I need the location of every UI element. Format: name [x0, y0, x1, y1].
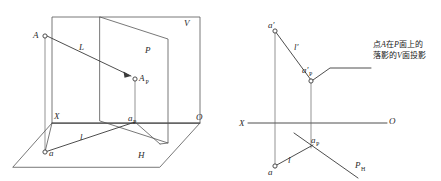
marker-point-a-lower — [43, 150, 47, 154]
left-diagram-group: A L V P A P X O a a P l H — [13, 17, 203, 167]
label-a-prime-P: a′ P — [302, 65, 313, 77]
annotation-text-block: 点A在P面上的 落影的V面投影 — [373, 39, 426, 60]
p-base-to-h-edge — [160, 143, 168, 144]
label-plane-H: H — [137, 150, 145, 160]
h-plane-edge-aP-corner — [135, 122, 160, 144]
marker-a-lower-right — [273, 164, 277, 168]
right-diagram-group: a′ l′ a′ P X O a P l a P H 点A在P面上的 — [238, 20, 426, 178]
label-point-AP: A P — [138, 73, 150, 85]
svg-text:H: H — [361, 166, 366, 172]
ray-L-A-to-AP — [47, 36, 131, 76]
label-point-aP-lower: a P — [128, 113, 137, 125]
label-plane-P: P — [144, 45, 151, 55]
label-plane-V: V — [184, 18, 191, 28]
label-line-L: L — [78, 42, 84, 52]
label-l-prime: l′ — [294, 42, 300, 52]
annotation-leader-line — [313, 68, 371, 80]
ground-trace-l — [45, 122, 135, 152]
marker-point-AP — [133, 77, 137, 81]
label-axis-X-left: X — [53, 111, 60, 121]
marker-a-prime-P — [309, 79, 313, 83]
ray-L-arrowhead — [124, 72, 132, 78]
label-a-prime: a′ — [268, 20, 276, 30]
plane-h-outline — [13, 123, 200, 167]
svg-text:P: P — [316, 141, 320, 147]
figure-root: A L V P A P X O a a P l H — [0, 0, 441, 181]
label-a-right: a — [268, 167, 273, 177]
annotation-line-1: 点A在P面上的 — [373, 39, 423, 49]
label-line-l-right: l — [288, 155, 291, 165]
label-point-A: A — [32, 30, 39, 40]
svg-text:P: P — [354, 160, 361, 170]
plane-v-outline — [52, 17, 200, 123]
trace-P-H — [294, 133, 358, 178]
marker-point-A — [43, 34, 47, 38]
label-P-H: P H — [354, 160, 366, 172]
annotation-line-2: 落影的V面投影 — [373, 50, 426, 60]
label-axis-O-right: O — [389, 116, 396, 126]
svg-text:A: A — [138, 73, 145, 83]
label-axis-X-right: X — [238, 118, 245, 128]
figure-canvas: A L V P A P X O a a P l H — [0, 0, 441, 181]
svg-text:P: P — [309, 71, 313, 77]
label-axis-O-left: O — [196, 112, 203, 122]
line-l-lower-right — [275, 145, 313, 166]
label-point-a-lower: a — [49, 148, 54, 158]
label-line-l-lower: l — [80, 132, 83, 142]
label-aP-right: a P — [311, 135, 320, 147]
svg-text:P: P — [146, 79, 150, 85]
